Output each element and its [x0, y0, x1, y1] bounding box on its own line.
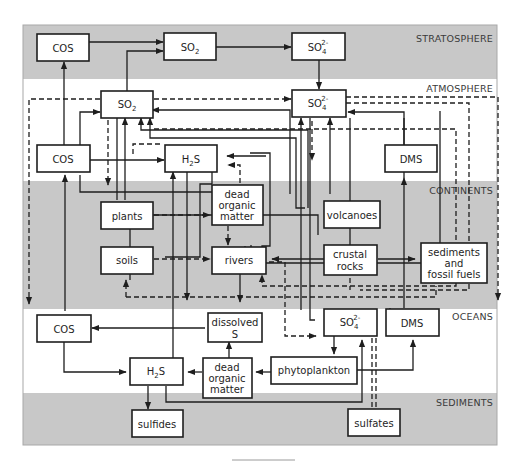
zone-label-stratosphere: STRATOSPHERE [416, 33, 493, 44]
node-cont-soils: soils [101, 247, 153, 274]
node-atm-cos: COS [37, 145, 90, 172]
svg-text:soils: soils [116, 255, 138, 266]
svg-text:crustal: crustal [333, 249, 367, 260]
node-ocean-h2s: H2S [130, 358, 183, 385]
svg-text:plants: plants [112, 211, 143, 222]
node-cont-dead-organic-matter: dead organic matter [212, 185, 263, 225]
svg-text:rocks: rocks [337, 261, 364, 272]
zone-label-atmosphere: ATMOSPHERE [426, 83, 493, 94]
svg-text:dead: dead [215, 362, 240, 373]
node-ocean-dissolved-s: dissolved S [208, 313, 262, 342]
svg-text:and: and [445, 258, 464, 269]
svg-text:matter: matter [210, 384, 245, 395]
node-cont-crustal-rocks: crustal rocks [324, 245, 377, 275]
svg-text:COS: COS [52, 154, 73, 165]
svg-text:S: S [232, 329, 238, 340]
node-sed-sulfates: sulfates [348, 409, 400, 436]
node-ocean-dms: DMS [386, 309, 439, 336]
svg-text:COS: COS [52, 43, 73, 54]
svg-text:fossil fuels: fossil fuels [428, 269, 481, 280]
node-atm-so2: SO2 [101, 91, 153, 118]
svg-text:rivers: rivers [225, 255, 253, 266]
zone-label-oceans: OCEANS [452, 311, 493, 322]
node-atm-dms: DMS [385, 145, 437, 172]
svg-text:dead: dead [225, 189, 250, 200]
node-strat-so2: SO2 [164, 33, 216, 60]
svg-text:sulfides: sulfides [138, 419, 176, 430]
node-atm-so4: SO42- [292, 90, 346, 117]
svg-text:dissolved: dissolved [212, 317, 259, 328]
svg-text:phytoplankton: phytoplankton [278, 365, 350, 376]
svg-text:volcanoes: volcanoes [327, 210, 377, 221]
node-cont-sediments-fossil-fuels: sediments and fossil fuels [421, 243, 487, 283]
node-cont-volcanoes: volcanoes [324, 201, 380, 228]
svg-text:sediments: sediments [428, 247, 480, 258]
zone-label-sediments: SEDIMENTS [436, 397, 493, 408]
node-cont-rivers: rivers [212, 247, 266, 274]
node-atm-h2s: H2S [165, 145, 217, 172]
node-strat-so4: SO42- [292, 33, 345, 60]
node-sed-sulfides: sulfides [132, 410, 183, 437]
svg-text:DMS: DMS [400, 154, 423, 165]
svg-text:organic: organic [208, 373, 245, 384]
svg-text:DMS: DMS [401, 318, 424, 329]
svg-text:matter: matter [220, 211, 255, 222]
node-strat-cos: COS [37, 34, 89, 61]
node-ocean-phytoplankton: phytoplankton [271, 357, 357, 384]
node-cont-plants: plants [101, 202, 153, 229]
zone-label-continents: CONTINENTS [429, 185, 493, 196]
node-ocean-dead-organic-matter: dead organic matter [203, 358, 252, 398]
sulfur-cycle-diagram: STRATOSPHERE ATMOSPHERE CONTINENTS OCEAN… [0, 0, 524, 468]
svg-text:COS: COS [53, 324, 74, 335]
svg-text:organic: organic [218, 200, 255, 211]
svg-text:sulfates: sulfates [354, 418, 393, 429]
node-ocean-cos: COS [37, 315, 91, 342]
sediments-band [23, 393, 497, 445]
node-ocean-so4: SO42- [324, 309, 377, 336]
